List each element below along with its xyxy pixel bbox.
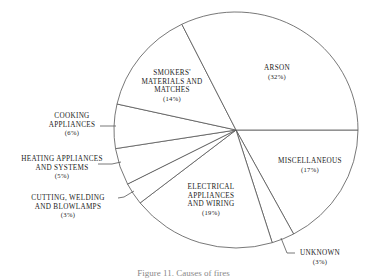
label-arson: ARSON (32%) bbox=[264, 64, 290, 81]
label-pct: (5%) bbox=[21, 172, 102, 181]
label-cutting: CUTTING, WELDING AND BLOWLAMPS (3%) bbox=[31, 194, 104, 220]
label-text: AND BLOWLAMPS bbox=[31, 203, 104, 212]
label-text: HEATING APPLIANCES bbox=[21, 155, 102, 164]
label-text: AND WIRING bbox=[188, 200, 235, 209]
label-text: AND SYSTEMS bbox=[21, 164, 102, 173]
label-text: SMOKERS' bbox=[141, 69, 202, 78]
label-pct: (19%) bbox=[188, 209, 235, 218]
label-text: MATCHES bbox=[141, 86, 202, 95]
pie-chart bbox=[0, 0, 367, 278]
label-text: CUTTING, WELDING bbox=[31, 194, 104, 203]
label-pct: (6%) bbox=[49, 129, 96, 138]
label-pct: (14%) bbox=[141, 95, 202, 104]
label-electrical: ELECTRICAL APPLIANCES AND WIRING (19%) bbox=[188, 183, 235, 217]
label-text: APPLIANCES bbox=[188, 192, 235, 201]
label-smokers: SMOKERS' MATERIALS AND MATCHES (14%) bbox=[141, 69, 202, 103]
label-text: ELECTRICAL bbox=[188, 183, 235, 192]
label-text: APPLIANCES bbox=[49, 121, 96, 130]
label-cooking: COOKING APPLIANCES (6%) bbox=[49, 112, 96, 138]
pie-slices bbox=[114, 12, 358, 248]
label-text: COOKING bbox=[49, 112, 96, 121]
label-pct: (17%) bbox=[278, 166, 342, 175]
label-pct: (3%) bbox=[300, 258, 340, 267]
leader-unknown bbox=[281, 238, 295, 253]
figure-caption: Figure 11. Causes of fires bbox=[137, 268, 229, 278]
label-text: UNKNOWN bbox=[300, 249, 340, 258]
label-heating: HEATING APPLIANCES AND SYSTEMS (5%) bbox=[21, 155, 102, 181]
label-miscellaneous: MISCELLANEOUS (17%) bbox=[278, 157, 342, 174]
leader-cutting bbox=[118, 191, 134, 198]
label-unknown: UNKNOWN (3%) bbox=[300, 249, 340, 266]
label-text: MISCELLANEOUS bbox=[278, 157, 342, 166]
label-pct: (3%) bbox=[31, 211, 104, 220]
label-text: ARSON bbox=[264, 64, 290, 73]
label-text: MATERIALS AND bbox=[141, 78, 202, 87]
label-pct: (32%) bbox=[264, 73, 290, 82]
